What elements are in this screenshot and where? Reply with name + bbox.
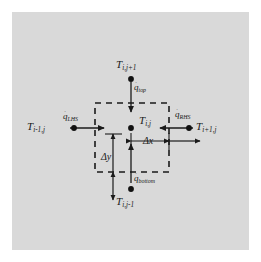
flux-bottom-dot: ˙ (135, 172, 137, 178)
flux-label-top: ˙qtop (134, 83, 146, 94)
flux-label-lhs: ˙qLHS (63, 112, 78, 123)
node-label-right: Ti+1,j (196, 121, 216, 134)
delta-y-label: Δy (101, 152, 111, 162)
node-point-left (71, 125, 77, 131)
node-label-bottom-subscript: i,j-1 (122, 201, 134, 209)
node-label-bottom: Ti,j-1 (116, 196, 134, 209)
node-point-bottom (128, 186, 134, 192)
flux-lhs-dot: ˙ (64, 110, 66, 116)
flux-top-subscript: top (139, 87, 147, 93)
flux-rhs-subscript: RHS (180, 114, 191, 120)
node-label-left: Ti-1,j (27, 121, 45, 134)
node-label-center: Ti,j (139, 115, 151, 128)
node-point-right (186, 125, 192, 131)
node-point-center (128, 125, 134, 131)
node-label-left-subscript: i-1,j (33, 126, 45, 134)
node-label-right-subscript: i+1,j (202, 126, 216, 134)
flux-label-rhs: ˙qRHS (175, 110, 190, 121)
delta-x-label: Δx (143, 136, 153, 146)
node-label-center-subscript: i,j (145, 120, 151, 128)
flux-bottom-subscript: bottom (139, 178, 156, 184)
node-label-top: Ti,j+1 (116, 59, 136, 72)
figure-root: Ti,j+1 Ti,j-1 Ti-1,j Ti+1,j Ti,j ˙qtop ˙… (0, 0, 261, 262)
flux-label-bottom: ˙qbottom (134, 174, 155, 185)
node-label-top-subscript: i,j+1 (122, 64, 136, 72)
flux-lhs-subscript: LHS (68, 116, 79, 122)
flux-top-dot: ˙ (135, 81, 137, 87)
flux-rhs-dot: ˙ (176, 108, 178, 114)
